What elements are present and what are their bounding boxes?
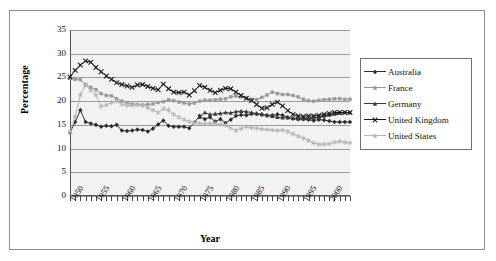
asterisk-marker-icon (364, 129, 386, 143)
y-tick-label: 25 (40, 72, 66, 81)
data-point (373, 102, 377, 106)
data-point (328, 98, 331, 101)
data-point (203, 117, 207, 122)
data-point (104, 124, 108, 129)
series-united-kingdom (68, 59, 353, 119)
data-point (229, 95, 232, 98)
data-point (265, 93, 268, 96)
data-point (348, 98, 351, 101)
data-point (208, 88, 213, 93)
data-point (307, 99, 310, 102)
data-point (280, 104, 285, 109)
data-point (177, 115, 181, 120)
data-point (270, 102, 275, 107)
data-point (110, 94, 113, 97)
data-point (135, 127, 139, 132)
data-point (296, 134, 300, 139)
legend-label: United States (386, 131, 436, 141)
series-line (70, 61, 350, 116)
data-point (234, 128, 238, 133)
data-point (79, 78, 82, 81)
data-point (94, 65, 99, 70)
x-axis-tick-labels: 1950195519601965197019751980198519901995… (70, 198, 350, 238)
legend-item-germany[interactable]: Germany (364, 96, 467, 112)
legend-item-united-states[interactable]: United States (364, 128, 467, 144)
data-point (156, 110, 160, 115)
data-point (182, 124, 186, 129)
y-tick-label: 20 (40, 96, 66, 105)
data-point (271, 90, 274, 93)
data-point (130, 128, 134, 133)
y-tick-label: 35 (40, 25, 66, 34)
data-point (338, 97, 341, 100)
data-point (94, 123, 98, 128)
data-point (317, 98, 320, 101)
data-point (327, 119, 331, 124)
x-minor-tick (350, 196, 351, 201)
data-point (373, 134, 377, 139)
data-point (301, 136, 305, 141)
y-tick-label: 5 (40, 167, 66, 176)
data-point (218, 88, 223, 93)
data-point (306, 138, 310, 143)
data-point (140, 128, 144, 133)
square-marker-icon (364, 81, 386, 95)
data-point (83, 120, 87, 125)
data-point (78, 108, 82, 113)
legend-item-united-kingdom[interactable]: United Kingdom (364, 112, 467, 128)
data-point (333, 97, 336, 100)
diamond-marker-icon (364, 65, 386, 79)
data-point (182, 117, 186, 122)
data-point (275, 100, 280, 105)
y-tick-label: 0 (40, 191, 66, 200)
legend-label: Australia (386, 67, 421, 77)
data-point (161, 82, 166, 87)
legend-item-france[interactable]: France (364, 80, 467, 96)
y-axis-tick-labels: 05101520253035 (38, 30, 66, 196)
data-point (177, 100, 180, 103)
y-tick-label: 30 (40, 49, 66, 58)
data-point (286, 93, 289, 96)
data-point (244, 113, 248, 118)
data-point (166, 87, 171, 92)
series-layer (70, 30, 350, 196)
data-point (172, 99, 175, 102)
legend-item-australia[interactable]: Australia (364, 64, 467, 80)
data-point (192, 88, 197, 93)
data-point (234, 94, 237, 97)
data-point (73, 68, 78, 73)
data-point (343, 98, 346, 101)
data-point (151, 102, 154, 105)
data-point (78, 92, 82, 97)
y-tick-label: 10 (40, 144, 66, 153)
data-point (322, 98, 325, 101)
line-chart: Percentage 05101520253035 19501955196019… (0, 0, 496, 261)
data-point (296, 95, 299, 98)
data-point (162, 100, 165, 103)
data-point (146, 129, 150, 134)
x-marker-icon (364, 113, 386, 127)
data-point (188, 102, 191, 105)
data-point (291, 94, 294, 97)
data-point (99, 69, 104, 74)
data-point (203, 110, 207, 114)
data-point (312, 99, 315, 102)
data-point (187, 93, 192, 98)
data-point (373, 86, 376, 89)
data-point (234, 90, 239, 95)
data-point (182, 101, 185, 104)
data-point (219, 98, 222, 101)
y-tick-label: 15 (40, 120, 66, 129)
data-point (104, 74, 109, 79)
legend: AustraliaFranceGermanyUnited KingdomUnit… (360, 58, 472, 150)
plot-area (70, 30, 350, 196)
data-point (125, 129, 129, 134)
data-point (213, 98, 216, 101)
data-point (109, 124, 113, 129)
data-point (114, 80, 119, 85)
data-point (177, 124, 181, 129)
data-point (291, 131, 295, 136)
data-point (373, 70, 377, 75)
data-point (255, 98, 258, 101)
data-point (172, 124, 176, 129)
